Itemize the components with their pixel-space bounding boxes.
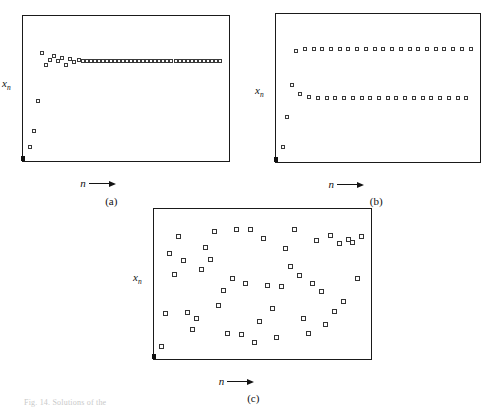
data-point: [416, 47, 420, 51]
data-point: [265, 283, 270, 288]
data-point: [341, 299, 346, 304]
x-axis-label-group-c: n: [219, 376, 255, 387]
data-point: [248, 227, 253, 232]
data-point: [221, 288, 226, 293]
data-point: [451, 47, 455, 51]
data-point: [294, 49, 298, 53]
y-axis-label-c-sub: n: [138, 277, 142, 286]
data-point: [456, 96, 460, 100]
data-point: [281, 145, 285, 149]
data-point: [390, 47, 394, 51]
plot-frame-a: [22, 15, 230, 162]
data-point: [425, 47, 429, 51]
data-point: [464, 96, 468, 100]
data-point: [194, 316, 199, 321]
data-point: [338, 47, 342, 51]
axis-origin-mark-c: [152, 354, 156, 359]
data-point: [438, 96, 442, 100]
data-point: [307, 95, 311, 99]
data-point: [64, 63, 68, 67]
data-point: [408, 47, 412, 51]
data-point: [469, 47, 473, 51]
data-point: [234, 227, 239, 232]
data-point: [306, 331, 311, 336]
data-point: [32, 129, 36, 133]
data-point: [386, 96, 390, 100]
data-point: [346, 47, 350, 51]
data-point: [167, 251, 172, 256]
data-point: [310, 281, 315, 286]
data-point: [274, 335, 279, 340]
y-axis-label-a: xn: [2, 78, 11, 92]
x-axis-label-a: n: [80, 178, 86, 189]
axis-origin-mark-b: [274, 157, 278, 162]
data-point: [429, 96, 433, 100]
data-point: [292, 227, 297, 232]
y-axis-label-b: xn: [255, 85, 264, 99]
data-point: [60, 56, 64, 60]
axis-origin-mark-a: [21, 156, 25, 161]
plot-frame-b: [275, 13, 481, 163]
data-point: [421, 96, 425, 100]
data-point: [185, 310, 190, 315]
x-axis-label-b: n: [329, 179, 335, 190]
data-point: [360, 96, 364, 100]
data-point: [172, 272, 177, 277]
data-point: [319, 289, 324, 294]
data-point: [399, 47, 403, 51]
data-point: [337, 241, 342, 246]
data-point: [216, 303, 221, 308]
data-point: [243, 281, 248, 286]
data-point: [298, 92, 302, 96]
data-point: [163, 311, 168, 316]
figure-bottom-caption: Fig. 14. Solutions of the: [24, 398, 106, 407]
data-point: [333, 96, 337, 100]
data-point: [270, 306, 275, 311]
data-point: [355, 276, 360, 281]
data-point: [329, 47, 333, 51]
data-point: [442, 47, 446, 51]
arrow-right-icon-c: [227, 378, 254, 385]
data-point: [225, 331, 230, 336]
data-point: [279, 284, 284, 289]
data-point: [36, 99, 40, 103]
data-point: [320, 47, 324, 51]
data-point: [297, 273, 302, 278]
data-point: [381, 47, 385, 51]
figure-canvas: xn n (a) xn n (b) xn n: [0, 0, 498, 408]
data-point: [303, 47, 307, 51]
data-point: [261, 236, 266, 241]
data-point: [290, 83, 294, 87]
data-point: [48, 58, 52, 62]
data-point: [332, 309, 337, 314]
data-point: [176, 234, 181, 239]
x-axis-label-c: n: [219, 376, 225, 387]
data-point: [288, 264, 293, 269]
data-point: [364, 47, 368, 51]
data-point: [403, 96, 407, 100]
data-point: [28, 145, 32, 149]
data-point: [285, 115, 289, 119]
x-axis-label-group-a: n: [80, 178, 116, 189]
data-point: [208, 257, 213, 262]
data-point: [159, 344, 164, 349]
data-point: [460, 47, 464, 51]
data-point: [203, 245, 208, 250]
panel-caption-a: (a): [105, 195, 117, 207]
data-point: [316, 96, 320, 100]
plot-frame-c: [153, 208, 372, 360]
x-axis-label-group-b: n: [329, 179, 365, 190]
y-axis-label-a-sub: n: [7, 83, 11, 92]
data-point: [359, 234, 364, 239]
data-point: [44, 63, 48, 67]
data-point: [312, 47, 316, 51]
data-point: [368, 96, 372, 100]
panel-caption-b: (b): [370, 195, 383, 207]
data-point: [52, 54, 56, 58]
data-point: [351, 96, 355, 100]
y-axis-label-c: xn: [133, 272, 142, 286]
data-point: [257, 319, 262, 324]
data-point: [373, 47, 377, 51]
data-point: [350, 240, 355, 245]
data-point: [412, 96, 416, 100]
